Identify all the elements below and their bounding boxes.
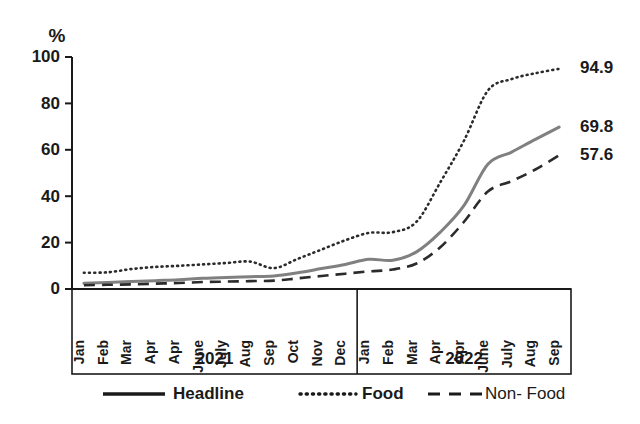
legend-label-non-food: Non- Food	[485, 384, 565, 403]
x-month-label: Nov	[309, 340, 325, 367]
x-month-label: Jan	[71, 340, 87, 364]
legend-label-headline: Headline	[173, 384, 244, 403]
x-month-label: July	[499, 340, 515, 368]
y-tick-label: 60	[41, 140, 60, 159]
y-tick-group: 020406080100	[32, 47, 72, 298]
x-month-label: Apr	[427, 339, 443, 364]
x-month-label: Sep	[261, 340, 277, 366]
y-tick-label: 100	[32, 47, 60, 66]
x-year-label: 2022	[445, 349, 483, 368]
series-end-label-non-food: 57.6	[580, 145, 613, 164]
series-line-headline	[84, 127, 559, 283]
legend-label-food: Food	[362, 384, 404, 403]
x-month-label: Apr	[166, 339, 182, 364]
y-axis-unit-label: %	[49, 25, 66, 46]
x-axis-group: JanFebMarAprAprJuneJulyAugSepOctNovDecJa…	[71, 289, 571, 374]
inflation-line-chart: % 020406080100 JanFebMarAprAprJuneJulyAu…	[0, 0, 640, 424]
chart-canvas: % 020406080100 JanFebMarAprAprJuneJulyAu…	[0, 0, 640, 424]
x-month-label: Oct	[285, 340, 301, 364]
x-month-label: Dec	[332, 340, 348, 366]
x-month-label: Apr	[142, 339, 158, 364]
series-line-non-food	[84, 155, 559, 285]
x-month-label: Aug	[522, 340, 538, 367]
x-month-label: Jan	[356, 340, 372, 364]
legend-group: HeadlineFoodNon- Food	[103, 384, 565, 403]
x-month-label: Sep	[546, 340, 562, 366]
series-end-label-food: 94.9	[580, 58, 613, 77]
x-month-label: Feb	[380, 340, 396, 365]
y-tick-label: 0	[51, 279, 60, 298]
series-end-label-headline: 69.8	[580, 117, 613, 136]
x-month-label: Mar	[404, 339, 420, 364]
y-tick-label: 80	[41, 94, 60, 113]
y-axis-group: % 020406080100	[32, 25, 72, 298]
x-month-label-group: JanFebMarAprAprJuneJulyAugSepOctNovDecJa…	[71, 339, 562, 372]
x-month-label: Mar	[118, 339, 134, 364]
series-line-food	[84, 69, 559, 273]
x-month-label: Aug	[237, 340, 253, 367]
y-tick-label: 40	[41, 187, 60, 206]
y-tick-label: 20	[41, 233, 60, 252]
series-group	[84, 69, 559, 285]
end-label-group: 69.894.957.6	[580, 58, 613, 164]
x-month-label: Feb	[95, 340, 111, 365]
x-year-label: 2021	[196, 349, 234, 368]
